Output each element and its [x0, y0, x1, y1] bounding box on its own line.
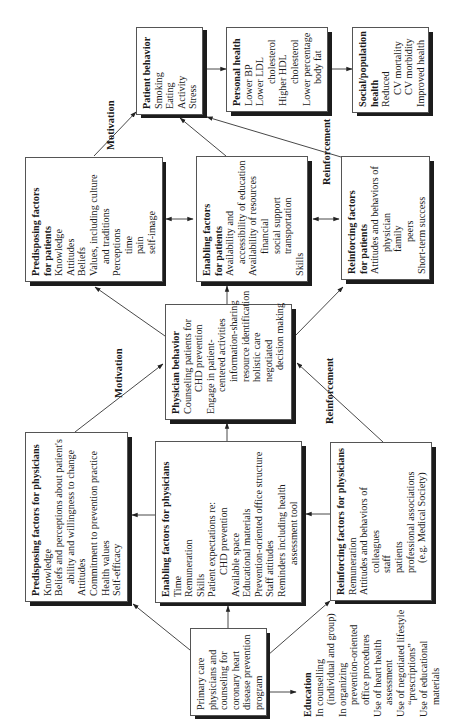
box-line: resource identification [240, 310, 252, 414]
box-line: Skills [294, 162, 306, 276]
box-line: counseling for [218, 634, 230, 710]
box-line: Primary care [195, 634, 207, 710]
box-line: Reduced [380, 33, 392, 107]
enabling-patients-title-2: for patients [213, 162, 225, 276]
box-line: Knowledge [42, 438, 54, 596]
predisposing-patients-title-2: for patients [42, 163, 54, 276]
box-line: disease prevention [241, 634, 253, 710]
box-line: Improved health [415, 33, 427, 107]
box-line: Lower BP [243, 33, 255, 106]
box-line: family [392, 162, 404, 274]
box-line: cholesterol [266, 33, 278, 106]
box-line: Counseling patients for [182, 310, 194, 414]
reinforcing-patients-title: Reinforcing factors [346, 162, 358, 274]
personal-health-title: Personal health [231, 33, 243, 106]
enabling-patients-box: Enabling factors for patients Availabili… [196, 156, 308, 282]
box-line: self-image [146, 163, 158, 276]
box-line: social support [271, 162, 283, 276]
box-line: and traditions [100, 163, 112, 276]
box-line: Remuneration [183, 447, 195, 597]
predisposing-patients-box: Predisposing factors for patients Knowle… [25, 157, 163, 282]
box-line: Prevention-oriented office structure [253, 447, 265, 597]
box-line: Attitudes [76, 438, 88, 596]
box-line: Eating [164, 33, 176, 109]
box-line: Remuneration [347, 448, 359, 595]
box-line: “prescriptions” [406, 597, 418, 717]
reinforcement-label-top: Reinforcement [321, 119, 332, 185]
box-line: Engage in patient- [205, 310, 217, 414]
reinforcing-physicians-box: Reinforcing factors for physicians Remun… [330, 442, 432, 601]
box-line: financial [259, 162, 271, 276]
box-line: Stress [187, 33, 199, 109]
predisposing-physicians-box: Predisposing factors for physicians Know… [25, 432, 128, 602]
enabling-patients-title: Enabling factors [201, 162, 213, 276]
physician-behavior-title: Physician behavior [170, 310, 182, 414]
box-line: CHD prevention [193, 310, 205, 414]
box-line: ability and willingness to change [65, 438, 77, 596]
social-health-title: Social/population [357, 33, 369, 107]
reinforcing-patients-title-2: for patients [358, 162, 370, 274]
box-line: materials [430, 597, 442, 717]
personal-health-box: Personal health Lower BP Lower LDL chole… [226, 27, 328, 112]
box-line: In organizing [337, 597, 349, 717]
box-line: centered activities [216, 310, 228, 414]
box-line: Availability of resources [247, 162, 259, 276]
box-line: (e.g. Medical Society) [416, 448, 428, 595]
predisposing-patients-title: Predisposing factors [30, 163, 42, 276]
box-line: Use of educational [418, 597, 430, 717]
box-line: (individual and group) [325, 597, 337, 717]
predisposing-physicians-title: Predisposing factors for physicians [30, 438, 42, 596]
box-line: assessment [383, 597, 395, 717]
box-line: physician [381, 162, 393, 274]
box-line: In counselling [314, 597, 326, 717]
motivation-label-bottom: Motivation [113, 348, 124, 398]
physician-behavior-box: Physician behavior Counseling patients f… [165, 304, 292, 420]
box-line: CV mortality [392, 33, 404, 107]
reinforcement-label-bottom: Reinforcement [324, 358, 335, 424]
social-health-title-2: health [369, 33, 381, 107]
box-line: prevention-oriented [348, 597, 360, 717]
box-line: Attitudes and behaviors of [369, 162, 381, 274]
box-line: Perceptions [111, 163, 123, 276]
box-line: information-sharing [228, 310, 240, 414]
box-line: Smoking [153, 33, 165, 109]
box-line: Lower percentage [301, 33, 313, 106]
box-line: Use of heart health [372, 597, 384, 717]
reinforcing-patients-box: Reinforcing factors for patients Attitud… [341, 156, 430, 280]
box-line: pain [134, 163, 146, 276]
enabling-physicians-title: Enabling factors for physicians [160, 447, 172, 597]
box-line: Reminders including health [276, 447, 288, 597]
box-line: Activity [176, 33, 188, 109]
box-line: Attitudes and behaviors of [358, 448, 370, 595]
box-line: accessibility of education [236, 162, 248, 276]
box-line: Time [172, 447, 184, 597]
enabling-physicians-box: Enabling factors for physicians Time Rem… [155, 441, 302, 603]
box-line: physicians and [207, 634, 219, 710]
box-line: decision making [274, 310, 286, 414]
box-line: CV morbidity [403, 33, 415, 107]
box-line: Short-term success [416, 162, 428, 274]
box-line: Lower LDL [254, 33, 266, 106]
reinforcing-physicians-title: Reinforcing factors for physicians [335, 448, 347, 595]
box-line: cholesterol [289, 33, 301, 106]
box-line: coronary heart [230, 634, 242, 710]
motivation-label-top: Motivation [105, 100, 116, 150]
box-line: transportation [282, 162, 294, 276]
box-line: body fat [312, 33, 324, 106]
box-line: Patient expectations re: [206, 447, 218, 597]
box-line: Health values [100, 438, 112, 596]
box-line: Higher HDL [277, 33, 289, 106]
box-line: Attitudes [65, 163, 77, 276]
box-line: Staff attitudes [264, 447, 276, 597]
box-line: program [253, 634, 265, 710]
box-line: Self-efficacy [111, 438, 123, 596]
box-line: Beliefs [76, 163, 88, 276]
patient-behavior-title: Patient behavior [141, 33, 153, 109]
box-line: Skills [195, 447, 207, 597]
box-line: CHD prevention [218, 447, 230, 597]
box-line: Use of negotiated lifestyle [395, 597, 407, 717]
box-line: colleagues [370, 448, 382, 595]
box-line: Educational materials [241, 447, 253, 597]
box-line: staff [381, 448, 393, 595]
box-line: office procedures [360, 597, 372, 717]
